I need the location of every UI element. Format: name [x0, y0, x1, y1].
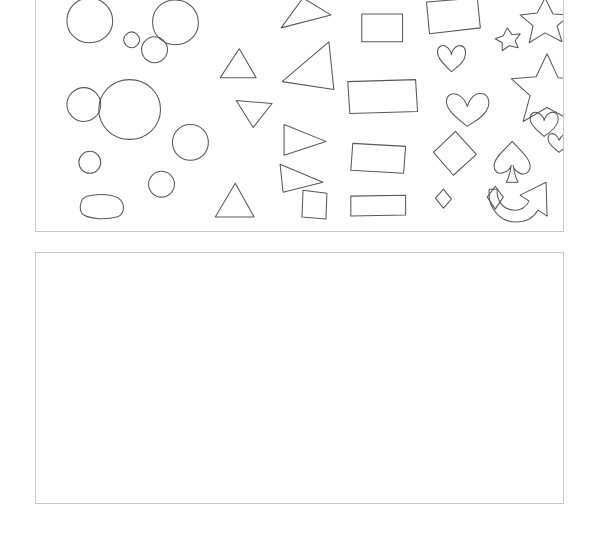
- circle-8-shape[interactable]: [79, 151, 101, 173]
- rect-5-shape[interactable]: [302, 190, 327, 219]
- heart-group: [437, 46, 563, 153]
- shape-reference-strokes: [36, 0, 563, 231]
- star-1-shape[interactable]: [520, 0, 563, 43]
- diamond-2-shape[interactable]: [435, 189, 451, 208]
- triangle-7-shape[interactable]: [215, 183, 254, 217]
- circle-3-shape[interactable]: [124, 32, 140, 48]
- circle-1-shape[interactable]: [67, 0, 113, 43]
- heart-1-shape[interactable]: [437, 46, 465, 72]
- rect-1-shape[interactable]: [362, 14, 403, 42]
- shapes-worksheet-app: [0, 0, 597, 538]
- triangle-5-shape[interactable]: [284, 124, 326, 155]
- circle-7-shape[interactable]: [172, 124, 208, 160]
- circle-2-shape[interactable]: [153, 0, 199, 45]
- circle-6-shape[interactable]: [99, 80, 161, 140]
- triangle-group: [215, 0, 334, 217]
- arrow-group: [489, 182, 547, 222]
- triangle-2-shape[interactable]: [220, 49, 256, 78]
- spade-1-shape[interactable]: [494, 141, 530, 182]
- rect-3-shape[interactable]: [348, 80, 418, 114]
- diamond-3-shape[interactable]: [487, 186, 503, 209]
- star-3-shape[interactable]: [511, 54, 563, 122]
- drawing-canvas-panel[interactable]: [35, 252, 564, 504]
- circle-5-shape[interactable]: [67, 88, 101, 122]
- triangle-6-shape[interactable]: [280, 164, 323, 192]
- triangle-4-shape[interactable]: [236, 101, 272, 128]
- heart-3-shape[interactable]: [530, 112, 558, 136]
- arrow-1-shape[interactable]: [489, 182, 547, 222]
- triangle-3-shape[interactable]: [282, 42, 334, 90]
- shape-reference-panel[interactable]: [35, 0, 564, 232]
- heart-2-shape[interactable]: [446, 93, 488, 126]
- circle-10-shape[interactable]: [80, 195, 123, 219]
- star-group: [495, 0, 563, 121]
- star-2-shape[interactable]: [495, 28, 520, 51]
- circle-9-shape[interactable]: [149, 171, 175, 197]
- triangle-1-shape[interactable]: [281, 0, 331, 28]
- heart-4-shape[interactable]: [548, 134, 563, 153]
- diamond-group: [433, 131, 503, 209]
- drawing-canvas-strokes[interactable]: [36, 253, 563, 503]
- diamond-1-shape[interactable]: [433, 131, 476, 175]
- rectangle-group: [302, 0, 480, 219]
- rect-2-shape[interactable]: [427, 0, 481, 34]
- rect-6-shape[interactable]: [351, 195, 406, 216]
- rect-4-shape[interactable]: [351, 143, 406, 173]
- circle-group: [67, 0, 208, 219]
- spade-group: [494, 141, 530, 182]
- circle-4-shape[interactable]: [142, 37, 168, 63]
